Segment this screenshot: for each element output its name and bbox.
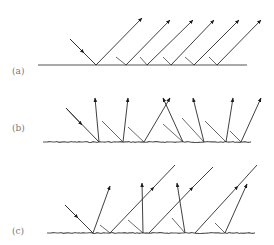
reflected-ray-arrow-icon <box>195 186 238 233</box>
reflected-ray-arrow-icon <box>95 98 99 142</box>
incident-arrow-icon <box>65 205 78 218</box>
panel-c-mixed: (c) <box>12 165 257 236</box>
incident-stub <box>185 57 194 65</box>
reflected-ray-arrow-icon <box>225 184 247 233</box>
incident-stub <box>140 57 147 65</box>
reflected-ray-arrow-icon <box>126 20 170 65</box>
reflected-ray-arrow-icon <box>194 20 239 65</box>
incident-stub <box>215 223 225 233</box>
incident-stub <box>163 124 183 142</box>
incident-stub <box>230 131 241 142</box>
reflected-ray-arrow-icon <box>163 98 183 142</box>
reflected-ray-arrow-icon <box>123 98 128 142</box>
panel-label: (c) <box>12 226 24 236</box>
reflected-ray-arrow-icon <box>217 20 261 65</box>
incident-stub <box>205 121 226 142</box>
reflection-diagram: (a) (b) (c) <box>0 0 274 245</box>
reflected-ray-arrow-icon <box>241 98 261 142</box>
reflected-ray-extension <box>154 165 175 187</box>
incident-stub <box>102 121 123 142</box>
incident-arrow-icon <box>66 108 82 125</box>
panel-b-diffuse: (b) <box>12 98 261 142</box>
panel-a-specular: (a) <box>12 18 261 76</box>
reflected-ray-arrow-icon <box>110 187 154 233</box>
reflected-ray-extension <box>238 165 257 186</box>
incident-arrow-icon <box>70 39 84 53</box>
rough-surface <box>47 233 255 234</box>
reflected-ray-extension <box>193 167 213 187</box>
panel-label: (b) <box>12 123 25 133</box>
incident-stub <box>100 225 110 233</box>
reflected-ray-arrow-icon <box>226 98 233 142</box>
incident-stub <box>116 57 126 65</box>
reflected-ray-arrow-icon <box>149 187 193 233</box>
incident-stub <box>163 57 171 65</box>
incident-stub <box>128 127 144 142</box>
incident-stub <box>209 57 217 65</box>
reflected-ray-arrow-icon <box>96 18 142 65</box>
reflected-ray-arrow-icon <box>142 183 143 233</box>
incident-stub <box>128 220 143 233</box>
reflected-ray-arrow-icon <box>193 98 204 142</box>
reflected-ray-arrow-icon <box>171 20 214 65</box>
panel-label: (a) <box>12 66 24 76</box>
rough-surface <box>43 142 251 143</box>
